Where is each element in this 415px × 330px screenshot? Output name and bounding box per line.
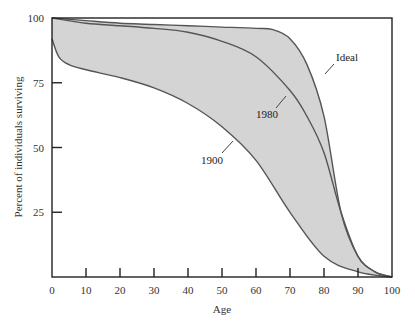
x-tick-label: 50 <box>217 284 229 296</box>
x-tick-label: 60 <box>251 284 263 296</box>
x-tick-label: 100 <box>384 284 401 296</box>
leader-1900 <box>222 141 233 153</box>
x-tick-label: 70 <box>285 284 297 296</box>
x-tick-label: 20 <box>115 284 127 296</box>
y-tick-label: 75 <box>33 77 45 89</box>
y-tick-label: 100 <box>28 12 45 24</box>
label-ideal: Ideal <box>336 51 358 63</box>
x-tick-label: 0 <box>49 284 55 296</box>
y-tick-label: 50 <box>33 142 45 154</box>
survivorship-chart: 0102030405060708090100255075100 Age Perc… <box>0 0 415 330</box>
y-tick-label: 25 <box>33 206 45 218</box>
x-tick-label: 90 <box>353 284 365 296</box>
label-1900: 1900 <box>201 154 224 166</box>
y-axis-label: Percent of individuals surviving <box>12 76 24 217</box>
label-1980: 1980 <box>256 108 279 120</box>
leader-ideal <box>325 64 334 74</box>
x-axis-label: Age <box>213 303 231 315</box>
x-tick-label: 40 <box>183 284 195 296</box>
x-tick-label: 80 <box>319 284 331 296</box>
x-tick-label: 30 <box>149 284 161 296</box>
x-tick-label: 10 <box>81 284 93 296</box>
